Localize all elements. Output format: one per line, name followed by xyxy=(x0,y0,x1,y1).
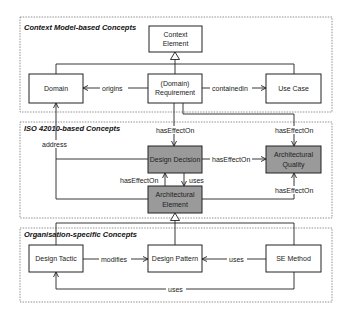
group-org-title: Organisation-specific Concepts xyxy=(24,230,137,239)
svg-text:Design Tactic: Design Tactic xyxy=(35,255,77,263)
node-context-element[interactable]: Context Element xyxy=(149,26,202,52)
svg-text:Design Decision: Design Decision xyxy=(150,156,201,164)
edge-se-dt-uses-label: uses xyxy=(168,286,183,293)
svg-text:Element: Element xyxy=(162,201,188,208)
node-domain[interactable]: Domain xyxy=(29,74,83,103)
edge-se-dp-uses-label: uses xyxy=(229,256,244,263)
edge-dd-ae-uses-label: uses xyxy=(189,177,204,184)
edge-req-dd-label: hasEffectOn xyxy=(156,127,195,134)
group-iso-title: ISO 42010-based Concepts xyxy=(24,124,120,133)
edge-origins-label: origins xyxy=(102,85,123,93)
node-design-pattern[interactable]: Design Pattern xyxy=(148,245,202,272)
svg-text:Context: Context xyxy=(163,31,187,38)
group-context-title: Context Model-based Concepts xyxy=(24,23,136,32)
svg-text:Element: Element xyxy=(163,40,189,47)
node-requirement[interactable]: (Domain) Requirement xyxy=(148,74,202,103)
svg-text:Architectural: Architectural xyxy=(156,191,195,198)
svg-text:(Domain): (Domain) xyxy=(161,80,190,88)
node-design-decision[interactable]: Design Decision xyxy=(148,146,202,173)
svg-text:Architectural: Architectural xyxy=(274,151,313,158)
edge-containedin-label: containedin xyxy=(212,85,248,92)
svg-text:Design Pattern: Design Pattern xyxy=(152,255,198,263)
node-architectural-quality[interactable]: Architectural Quality xyxy=(266,146,321,173)
svg-text:Domain: Domain xyxy=(44,85,68,92)
edge-req-aq-label: hasEffectOn xyxy=(275,127,314,134)
edge-req-aq xyxy=(183,103,294,146)
edge-dd-aq-label: hasEffectOn xyxy=(212,156,251,163)
node-architectural-element[interactable]: Architectural Element xyxy=(148,186,202,213)
svg-text:SE Method: SE Method xyxy=(276,255,311,262)
node-use-case[interactable]: Use Case xyxy=(266,74,321,103)
edge-modifies-label: modifies xyxy=(101,256,128,263)
edge-ae-aq-label: hasEffectOn xyxy=(275,187,314,194)
svg-text:Use Case: Use Case xyxy=(278,85,309,92)
svg-text:Quality: Quality xyxy=(283,161,305,169)
concept-diagram: Context Model-based Concepts ISO 42010-b… xyxy=(0,0,347,316)
node-se-method[interactable]: SE Method xyxy=(266,245,321,272)
edge-address-label: address xyxy=(42,141,67,148)
edge-ae-dd-label: hasEffectOn xyxy=(120,177,159,184)
svg-text:Requirement: Requirement xyxy=(155,89,195,97)
node-design-tactic[interactable]: Design Tactic xyxy=(29,245,83,272)
